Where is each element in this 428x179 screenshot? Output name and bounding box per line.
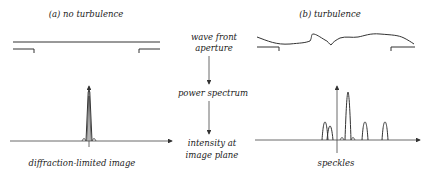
label-power-spectrum: power spectrum bbox=[178, 88, 248, 98]
panel-b-caption: speckles bbox=[318, 158, 355, 168]
label-image-plane: image plane bbox=[186, 150, 239, 160]
panel-a-caption: diffraction-limited image bbox=[29, 158, 136, 168]
label-intensity-at: intensity at bbox=[188, 138, 237, 148]
speckle-peak-main bbox=[345, 92, 351, 140]
speckle-peak bbox=[382, 122, 388, 140]
speckle-peak bbox=[362, 122, 368, 140]
aperture-left bbox=[13, 49, 34, 53]
aperture-right bbox=[139, 49, 160, 53]
aperture-b-right bbox=[391, 47, 415, 51]
aperture-b-left bbox=[257, 47, 279, 51]
panel-a-title: (a) no turbulence bbox=[49, 9, 124, 19]
label-wave-front: wave front bbox=[191, 32, 238, 42]
panel-b-title: (b) turbulence bbox=[299, 9, 361, 19]
turbulence-diagram: (a) no turbulence diffraction-limited im… bbox=[0, 0, 428, 179]
distorted-wavefront bbox=[257, 34, 414, 45]
label-aperture: aperture bbox=[195, 43, 233, 53]
